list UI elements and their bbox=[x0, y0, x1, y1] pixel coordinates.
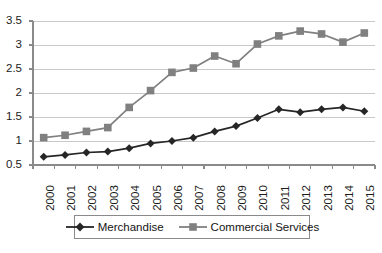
data-point-marker bbox=[125, 144, 133, 152]
x-axis-tick-label: 2010 bbox=[251, 168, 263, 212]
y-axis-tick-label: 2 bbox=[0, 87, 30, 99]
data-point-marker bbox=[61, 151, 69, 159]
x-axis-tick-label: 2007 bbox=[187, 168, 199, 212]
x-axis-tick-label: 2015 bbox=[358, 168, 370, 212]
legend-item-merchandise: Merchandise bbox=[65, 220, 164, 234]
data-point-marker bbox=[147, 87, 155, 95]
data-point-marker bbox=[82, 149, 90, 157]
x-axis-tick-label: 2003 bbox=[102, 168, 114, 212]
series-line-commercial-services bbox=[44, 31, 365, 138]
x-axis-tick-label: 2014 bbox=[337, 168, 349, 212]
x-axis-tick-label: 2011 bbox=[273, 168, 285, 212]
legend-label-merchandise: Merchandise bbox=[98, 221, 164, 233]
data-point-marker bbox=[275, 105, 283, 113]
x-axis-tick-label: 2001 bbox=[59, 168, 71, 212]
data-point-marker bbox=[211, 52, 219, 60]
x-axis-tick-labels: 2000200120022003200420052006200720082009… bbox=[0, 168, 382, 214]
y-axis-tick-label: 2.5 bbox=[0, 63, 30, 75]
series-line-merchandise bbox=[44, 107, 365, 156]
data-point-marker bbox=[254, 40, 262, 48]
legend-label-commercial-services: Commercial Services bbox=[211, 221, 320, 233]
data-point-marker bbox=[232, 122, 240, 130]
data-point-marker bbox=[339, 103, 347, 111]
legend-marker-diamond-icon bbox=[65, 220, 95, 234]
x-axis-tick-label: 2000 bbox=[38, 168, 50, 212]
y-axis-tick-label: 3 bbox=[0, 39, 30, 51]
legend-item-commercial-services: Commercial Services bbox=[178, 220, 320, 234]
data-point-marker bbox=[189, 134, 197, 142]
data-point-marker bbox=[104, 124, 112, 132]
y-axis-tick-label: 1.5 bbox=[0, 111, 30, 123]
x-axis-tick-label: 2009 bbox=[230, 168, 242, 212]
data-point-marker bbox=[168, 137, 176, 145]
data-point-marker bbox=[211, 127, 219, 135]
data-point-marker bbox=[253, 114, 261, 122]
x-axis-tick-label: 2013 bbox=[316, 168, 328, 212]
x-axis-tick-label: 2005 bbox=[145, 168, 157, 212]
x-axis-tick-label: 2002 bbox=[80, 168, 92, 212]
data-point-marker bbox=[296, 27, 304, 35]
data-point-marker bbox=[318, 105, 326, 113]
legend-marker-square-icon bbox=[178, 220, 208, 234]
data-point-marker bbox=[318, 30, 326, 38]
data-point-marker bbox=[360, 107, 368, 115]
data-point-marker bbox=[168, 69, 176, 77]
data-point-marker bbox=[361, 29, 369, 37]
x-axis-tick-label: 2006 bbox=[166, 168, 178, 212]
line-chart: 0.511.522.533.5 200020012002200320042005… bbox=[0, 0, 382, 253]
data-point-marker bbox=[125, 104, 133, 112]
data-point-marker bbox=[40, 134, 48, 142]
y-axis-tick-label: 3.5 bbox=[0, 15, 30, 27]
data-point-marker bbox=[296, 108, 304, 116]
x-axis-tick-label: 2012 bbox=[294, 168, 306, 212]
data-point-marker bbox=[104, 148, 112, 156]
data-point-marker bbox=[232, 60, 240, 68]
data-point-marker bbox=[190, 64, 198, 72]
y-axis-tick-label: 1 bbox=[0, 135, 30, 147]
data-point-marker bbox=[275, 32, 283, 40]
data-point-marker bbox=[339, 38, 347, 46]
data-point-marker bbox=[40, 153, 48, 161]
x-axis-tick-label: 2008 bbox=[209, 168, 221, 212]
data-point-marker bbox=[83, 128, 91, 136]
chart-legend: Merchandise Commercial Services bbox=[74, 215, 310, 239]
data-point-marker bbox=[61, 131, 69, 139]
x-axis-tick-label: 2004 bbox=[123, 168, 135, 212]
